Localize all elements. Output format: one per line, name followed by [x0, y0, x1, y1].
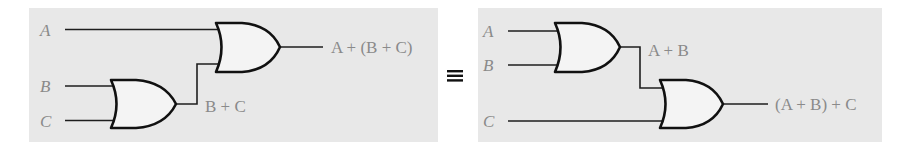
label-input-b-right: B [483, 56, 494, 75]
associative-law-diagram: A B C B + C A + (B + C) A B C A + B (A +… [0, 0, 915, 157]
left-circuit: A B C B + C A + (B + C) [29, 8, 438, 142]
label-intermediate-b-plus-c: B + C [205, 97, 246, 116]
equivalence-symbol [447, 70, 463, 82]
label-intermediate-a-plus-b: A + B [648, 41, 689, 60]
label-output-a-plus-bc: A + (B + C) [331, 38, 413, 57]
right-circuit: A B C A + B (A + B) + C [478, 8, 882, 142]
label-input-a-right: A [482, 22, 494, 41]
label-input-c-right: C [483, 112, 495, 131]
label-input-c-left: C [40, 112, 52, 131]
label-output-ab-plus-c: (A + B) + C [775, 95, 857, 114]
label-input-b-left: B [40, 77, 51, 96]
label-input-a-left: A [39, 21, 51, 40]
